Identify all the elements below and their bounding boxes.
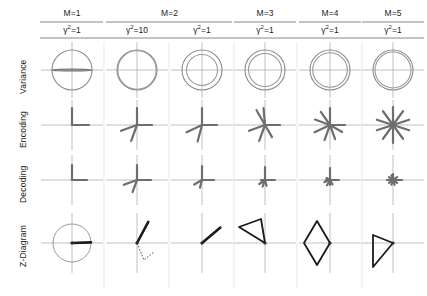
column-header-gamma-2: γ2=1 — [172, 24, 232, 35]
z-vector-0 — [72, 242, 91, 243]
column-header-gamma-5: γ2=1 — [363, 24, 423, 35]
row-label-encoding: Encoding — [18, 111, 28, 148]
z-origin-dot-5 — [391, 241, 394, 244]
z-polygon-3 — [239, 219, 265, 243]
z-polygon-5 — [373, 235, 393, 267]
column-header-m-5: M=5 — [363, 8, 423, 18]
z-origin-dot-3 — [263, 241, 266, 244]
z-vector-2 — [202, 228, 220, 243]
gamma-symbol: γ2=10 — [126, 25, 148, 35]
column-header-gamma-3: γ2=1 — [235, 24, 295, 35]
column-header-gamma-0: γ2=1 — [42, 24, 102, 35]
row-label-decoding: Decoding — [18, 165, 28, 203]
z-dotted-path-1 — [137, 243, 154, 260]
column-header-gamma-4: γ2=1 — [300, 24, 360, 35]
z-origin-dot-4 — [328, 241, 331, 244]
gamma-symbol: γ2=1 — [321, 25, 338, 35]
column-header-m-1: M=1 — [42, 8, 102, 18]
z-origin-dot-0 — [70, 241, 73, 244]
column-header-gamma-1: γ2=10 — [107, 24, 167, 35]
gamma-symbol: γ2=1 — [384, 25, 401, 35]
row-label-z-diagram: Z-Diagram — [18, 225, 28, 267]
column-header-m-2: M=2 — [107, 8, 232, 18]
z-vector-1 — [137, 222, 148, 243]
plot-grid — [0, 0, 427, 296]
gamma-symbol: γ2=1 — [256, 25, 273, 35]
column-header-m-4: M=4 — [300, 8, 360, 18]
figure-panel: M=1 M=2 M=3 M=4 M=5 γ2=1 γ2=10 γ2=1 γ2=1… — [0, 0, 427, 296]
decoding-vector-5-9 — [391, 175, 393, 180]
z-origin-dot-1 — [135, 241, 138, 244]
gamma-symbol: γ2=1 — [193, 25, 210, 35]
column-header-m-3: M=3 — [235, 8, 295, 18]
z-origin-dot-2 — [200, 241, 203, 244]
encoding-vector-3-5 — [265, 125, 272, 137]
gamma-symbol: γ2=1 — [63, 25, 80, 35]
row-label-variance: Variance — [18, 59, 28, 94]
